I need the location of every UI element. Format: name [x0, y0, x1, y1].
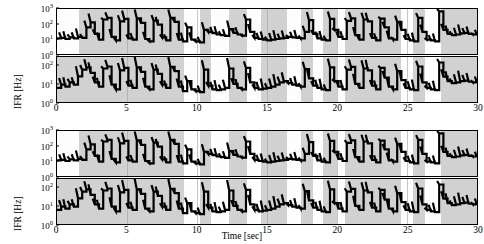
y-tick-label-2-1: 101: [41, 156, 53, 167]
x-tick-label-top-3: 15: [262, 104, 272, 114]
y-tick-label-0-3: 103: [41, 3, 53, 14]
y-tick-label-1-0: 100: [41, 98, 53, 109]
y-tick-label-0-1: 101: [41, 34, 53, 45]
y-tick-label-3-2: 102: [41, 182, 53, 193]
plot-area-0: [56, 8, 478, 55]
x-tick-label-top-2: 10: [192, 104, 202, 114]
y-tick-label-1-1: 101: [41, 79, 53, 90]
plot-panel-1: 100101102: [56, 56, 478, 103]
x-tick-label-top-5: 25: [403, 104, 413, 114]
x-tick-label-top-0: 0: [54, 104, 59, 114]
plot-panel-0: 100101102103: [56, 8, 478, 55]
y-tick-mark-0-2: [56, 23, 59, 24]
plot-area-2: [56, 130, 478, 177]
plot-area-1: [56, 56, 478, 103]
ifr-trace-1: [57, 57, 477, 102]
ifr-trace-2: [57, 131, 477, 176]
y-tick-mark-1-2: [56, 65, 59, 66]
y-tick-mark-2-2: [56, 145, 59, 146]
y-tick-mark-3-1: [56, 206, 59, 207]
y-axis-label-bottom: IFR [Hz]: [13, 196, 23, 231]
y-axis-label-top: IFR [Hz]: [13, 74, 23, 109]
x-axis-label: Time [sec]: [0, 231, 484, 241]
plot-area-3: [56, 178, 478, 225]
y-tick-mark-2-3: [56, 130, 59, 131]
y-tick-mark-3-2: [56, 187, 59, 188]
x-tick-label-top-1: 5: [124, 104, 129, 114]
y-tick-mark-2-1: [56, 161, 59, 162]
y-tick-label-0-2: 102: [41, 18, 53, 29]
plot-panel-2: 100101102103: [56, 130, 478, 177]
y-tick-mark-1-1: [56, 84, 59, 85]
y-tick-mark-0-1: [56, 39, 59, 40]
y-tick-label-2-3: 103: [41, 125, 53, 136]
y-tick-label-3-1: 101: [41, 201, 53, 212]
figure-ifr-timeseries: 100101102103100101102051015202530IFR [Hz…: [0, 0, 484, 244]
y-tick-label-3-0: 100: [41, 220, 53, 231]
x-tick-label-top-4: 20: [333, 104, 343, 114]
x-tick-label-top-6: 30: [473, 104, 483, 114]
ifr-trace-0: [57, 9, 477, 54]
y-tick-label-2-2: 102: [41, 140, 53, 151]
y-tick-mark-0-3: [56, 8, 59, 9]
plot-panel-3: 100101102: [56, 178, 478, 225]
y-tick-label-1-2: 102: [41, 60, 53, 71]
ifr-trace-3: [57, 179, 477, 224]
x-axis-top: 051015202530: [56, 103, 478, 119]
